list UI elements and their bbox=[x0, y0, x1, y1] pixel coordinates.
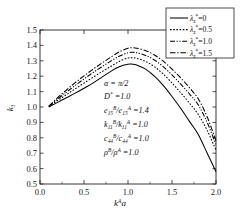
x-tick-label: 1.0 bbox=[123, 187, 134, 197]
annotation-alpha: α = π/2 bbox=[104, 79, 128, 88]
legend-label-2: λz*=1.0 bbox=[189, 36, 212, 47]
legend-label-3: λz*=1.5 bbox=[189, 48, 212, 59]
svg-text:kAa: kAa bbox=[114, 198, 126, 208]
y-axis-title-sub: 3 bbox=[10, 104, 16, 108]
y-axis-title: k3 bbox=[5, 104, 16, 111]
x-tick-label: 0.0 bbox=[35, 187, 46, 197]
annotation-k11: k11B/k11A =1.0 bbox=[104, 119, 148, 130]
y-tick-label: 0.9 bbox=[26, 117, 37, 127]
y-tick-label: 1.1 bbox=[26, 87, 37, 97]
chart-figure: 0.50.60.70.80.91.01.11.21.31.41.5 0.00.5… bbox=[0, 0, 240, 222]
y-tick-label: 0.6 bbox=[26, 164, 37, 174]
x-tick-label: 0.5 bbox=[79, 187, 90, 197]
x-tick-label: 2.0 bbox=[211, 187, 222, 197]
y-axis-tick-labels: 0.50.60.70.80.91.01.11.21.31.41.5 bbox=[26, 25, 37, 189]
y-tick-label: 1.2 bbox=[26, 71, 37, 81]
x-tick-label: 1.5 bbox=[167, 187, 178, 197]
annotation-c44: c44B/c44A =1.0 bbox=[104, 133, 149, 144]
legend-label-0: λz*=0 bbox=[189, 13, 206, 24]
annotation-dstar: D* =1.0 bbox=[103, 91, 130, 101]
y-tick-label: 1.5 bbox=[26, 25, 37, 35]
svg-text:k3: k3 bbox=[5, 104, 16, 111]
y-tick-label: 1.4 bbox=[26, 40, 37, 50]
annotation-rho: ρB/ρA =1.0 bbox=[103, 147, 139, 157]
y-tick-label: 1.0 bbox=[26, 102, 37, 112]
annotation-e15: e15B/e15A =1.4 bbox=[104, 105, 149, 116]
legend: λz*=0λz*=0.5λz*=1.0λz*=1.5 bbox=[166, 8, 234, 59]
annotation-block: α = π/2 D* =1.0 e15B/e15A =1.4 k11B/k11A… bbox=[103, 79, 149, 157]
legend-label-1: λz*=0.5 bbox=[189, 24, 212, 35]
y-tick-label: 1.3 bbox=[26, 56, 37, 66]
y-tick-label: 0.8 bbox=[26, 133, 37, 143]
x-axis-tick-labels: 0.00.51.01.52.0 bbox=[35, 187, 222, 197]
y-tick-label: 0.7 bbox=[26, 148, 37, 158]
x-axis-title: kAa bbox=[114, 198, 126, 208]
x-axis-title-tail: a bbox=[121, 198, 126, 208]
curve-2 bbox=[49, 52, 216, 144]
